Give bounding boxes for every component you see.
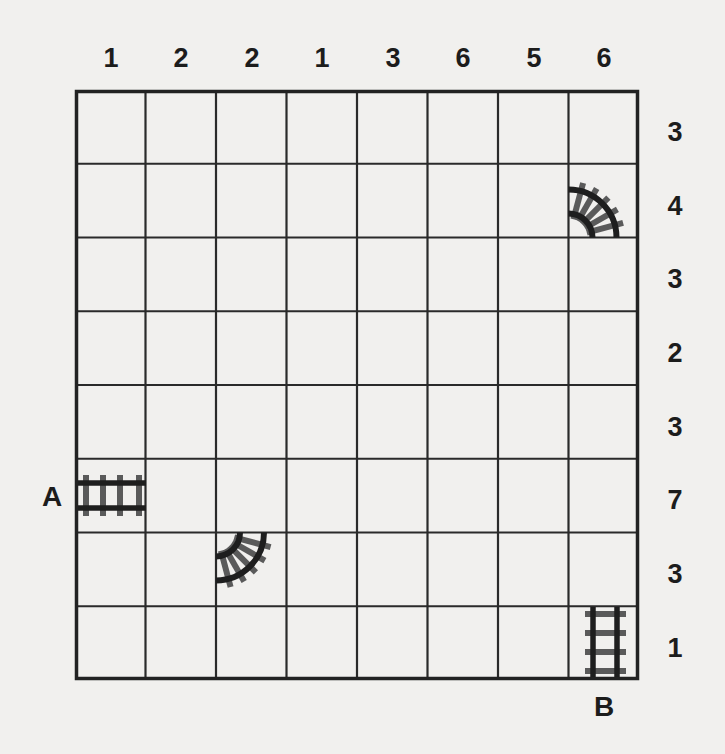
grid-cell-r7-c4[interactable] — [357, 606, 428, 680]
grid-cell-r1-c6[interactable] — [498, 164, 569, 238]
grid-cell-r0-c6[interactable] — [498, 90, 569, 164]
grid-cell-r3-c6[interactable] — [498, 311, 569, 385]
grid-cell-r6-c0[interactable] — [75, 533, 146, 607]
grid-cell-r6-c1[interactable] — [146, 533, 217, 607]
grid-cell-r4-c6[interactable] — [498, 385, 569, 459]
grid-cell-r4-c2[interactable] — [216, 385, 287, 459]
grid-cell-r1-c3[interactable] — [287, 164, 358, 238]
grid-cell-r2-c2[interactable] — [216, 238, 287, 312]
grid-cell-r0-c5[interactable] — [428, 90, 499, 164]
grid-cell-r3-c5[interactable] — [428, 311, 499, 385]
grid-cell-r4-c0[interactable] — [75, 385, 146, 459]
grid-cell-r7-c1[interactable] — [146, 606, 217, 680]
grid-cell-r2-c4[interactable] — [357, 238, 428, 312]
grid-cell-r4-c7[interactable] — [569, 385, 640, 459]
grid-cell-r7-c5[interactable] — [428, 606, 499, 680]
grid-cell-r6-c4[interactable] — [357, 533, 428, 607]
grid-cell-r3-c4[interactable] — [357, 311, 428, 385]
grid-cell-r3-c1[interactable] — [146, 311, 217, 385]
grid-cell-r5-c1[interactable] — [146, 459, 217, 533]
grid-cell-r7-c2[interactable] — [216, 606, 287, 680]
grid-cell-r4-c5[interactable] — [428, 385, 499, 459]
grid-cell-r0-c4[interactable] — [357, 90, 428, 164]
grid-cell-r2-c0[interactable] — [75, 238, 146, 312]
grid-cell-r3-c2[interactable] — [216, 311, 287, 385]
puzzle-board — [0, 0, 725, 754]
grid-cell-r0-c2[interactable] — [216, 90, 287, 164]
grid-cell-r2-c3[interactable] — [287, 238, 358, 312]
grid-cell-r5-c7[interactable] — [569, 459, 640, 533]
grid-cell-r0-c3[interactable] — [287, 90, 358, 164]
grid-cell-r4-c3[interactable] — [287, 385, 358, 459]
grid-cell-r4-c1[interactable] — [146, 385, 217, 459]
grid-cell-r0-c1[interactable] — [146, 90, 217, 164]
grid-cell-r3-c3[interactable] — [287, 311, 358, 385]
grid-cell-r7-c3[interactable] — [287, 606, 358, 680]
grid-cell-r6-c6[interactable] — [498, 533, 569, 607]
grid-cell-r1-c5[interactable] — [428, 164, 499, 238]
grid-cell-r4-c4[interactable] — [357, 385, 428, 459]
grid-cell-r7-c0[interactable] — [75, 606, 146, 680]
grid-cell-r2-c5[interactable] — [428, 238, 499, 312]
grid-cell-r3-c7[interactable] — [569, 311, 640, 385]
grid-cell-r1-c0[interactable] — [75, 164, 146, 238]
grid-cell-r5-c6[interactable] — [498, 459, 569, 533]
grid-cell-r5-c4[interactable] — [357, 459, 428, 533]
grid-cell-r5-c2[interactable] — [216, 459, 287, 533]
grid-cell-r6-c7[interactable] — [569, 533, 640, 607]
grid-cell-r6-c3[interactable] — [287, 533, 358, 607]
grid-cell-r2-c7[interactable] — [569, 238, 640, 312]
grid-cell-r1-c2[interactable] — [216, 164, 287, 238]
grid-cell-r5-c3[interactable] — [287, 459, 358, 533]
grid-cell-r7-c6[interactable] — [498, 606, 569, 680]
grid-cell-r1-c4[interactable] — [357, 164, 428, 238]
grid-cell-r5-c5[interactable] — [428, 459, 499, 533]
grid-cell-r0-c7[interactable] — [569, 90, 640, 164]
grid-cell-r2-c1[interactable] — [146, 238, 217, 312]
grid-cell-r2-c6[interactable] — [498, 238, 569, 312]
grid-cell-r6-c5[interactable] — [428, 533, 499, 607]
grid-cell-r1-c1[interactable] — [146, 164, 217, 238]
grid-cell-r0-c0[interactable] — [75, 90, 146, 164]
grid-cell-r3-c0[interactable] — [75, 311, 146, 385]
